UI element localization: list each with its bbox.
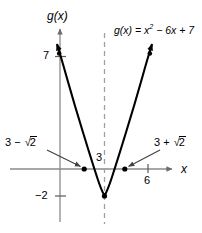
equation-label: g(x) = x2 − 6x + 7 bbox=[114, 24, 194, 35]
curve-right-arrowhead bbox=[150, 44, 153, 52]
right-root-leader-arrow bbox=[129, 150, 161, 167]
y-tick-label-minus-2: −2 bbox=[35, 190, 48, 201]
curve-right-endpoint-dot bbox=[148, 51, 153, 56]
left-root-annotation: 3 − √2 bbox=[5, 136, 37, 148]
graph-figure: g(x) x g(x) = x2 − 6x + 7 7 −2 3 6 3 − √… bbox=[0, 0, 202, 233]
left-root-radicand: 2 bbox=[30, 136, 37, 148]
parabola-curve bbox=[58, 46, 152, 196]
x-tick-label-6: 6 bbox=[144, 175, 150, 186]
right-root-point-dot bbox=[122, 166, 127, 171]
y-tick-label-7: 7 bbox=[43, 50, 49, 61]
right-root-annotation: 3 + √2 bbox=[154, 136, 186, 148]
equation-lhs: g(x) = bbox=[114, 24, 144, 36]
right-root-prefix: 3 + bbox=[154, 136, 173, 148]
left-root-point-dot bbox=[82, 166, 87, 171]
left-root-radical: √2 bbox=[24, 136, 37, 148]
right-root-radicand: 2 bbox=[179, 136, 186, 148]
curve-left-endpoint-dot bbox=[57, 51, 62, 56]
x-axis-label: x bbox=[181, 163, 187, 175]
left-root-leader-arrow bbox=[47, 150, 81, 167]
left-root-prefix: 3 − bbox=[5, 136, 24, 148]
vertex-point-dot bbox=[102, 193, 107, 198]
y-axis-label: g(x) bbox=[47, 10, 68, 22]
right-root-radical: √2 bbox=[173, 136, 186, 148]
curve-left-arrowhead bbox=[57, 44, 60, 52]
x-tick-label-3: 3 bbox=[96, 152, 102, 163]
equation-rest: − 6x + 7 bbox=[153, 24, 194, 36]
